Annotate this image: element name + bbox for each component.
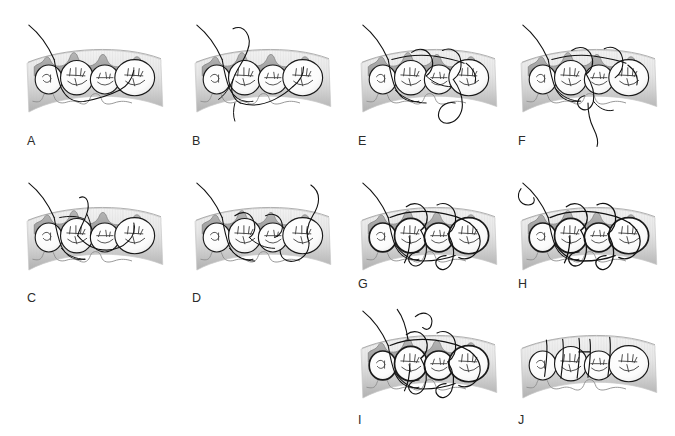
tooth-2	[61, 218, 94, 252]
suture-entry-thread	[363, 25, 388, 59]
tooth-4	[609, 346, 649, 382]
illustration-a	[18, 14, 170, 154]
tooth-2	[555, 218, 588, 252]
panel-g	[352, 172, 504, 312]
panel-a	[18, 14, 170, 154]
suture-entry-thread	[363, 311, 388, 345]
suture-second-free-end	[397, 309, 408, 340]
illustration-c	[18, 172, 170, 312]
panel-e	[352, 14, 504, 154]
panel-label-f: F	[518, 135, 526, 148]
suture-entry-thread	[29, 25, 54, 59]
panel-d	[186, 172, 338, 312]
illustration-f	[512, 14, 664, 154]
tooth-2	[555, 60, 588, 94]
suture-entry-thread	[29, 183, 54, 217]
illustration-d	[186, 172, 338, 312]
illustration-g	[352, 172, 504, 312]
panel-label-g: G	[358, 278, 368, 291]
suture-entry-thread	[197, 25, 222, 59]
illustration-h	[512, 172, 664, 312]
tooth-2	[395, 346, 428, 380]
panel-f	[512, 14, 664, 154]
tooth-4	[283, 218, 323, 254]
panel-i	[352, 300, 504, 436]
figure-canvas: ABEFCDGHIJ	[0, 0, 675, 436]
suture-entry-thread	[363, 183, 388, 217]
panel-label-c: C	[27, 292, 36, 305]
panel-label-e: E	[358, 135, 367, 148]
panel-label-d: D	[192, 292, 201, 305]
tooth-2	[395, 60, 428, 94]
illustration-e	[352, 14, 504, 154]
suture-entry-thread	[523, 25, 548, 59]
panel-h	[512, 172, 664, 312]
tooth-4	[115, 218, 155, 254]
suture-entry-thread	[197, 183, 222, 217]
panel-c	[18, 172, 170, 312]
panel-label-a: A	[27, 135, 36, 148]
panel-j	[512, 300, 664, 436]
panel-label-j: J	[518, 414, 524, 427]
suture-below-margin-loop	[234, 103, 235, 121]
panel-label-i: I	[358, 414, 362, 427]
tooth-1	[529, 351, 556, 380]
illustration-j	[512, 300, 664, 436]
tooth-2	[229, 218, 262, 252]
tooth-2	[61, 60, 94, 94]
tooth-4	[115, 60, 155, 96]
suture-free-end-curl	[415, 313, 432, 329]
panel-label-h: H	[518, 278, 527, 291]
illustration-i	[352, 300, 504, 436]
panel-b	[186, 14, 338, 154]
suture-free-tail-below	[588, 103, 598, 146]
panel-label-b: B	[192, 135, 201, 148]
illustration-b	[186, 14, 338, 154]
tooth-2	[395, 218, 428, 252]
suture-left-curl	[518, 189, 534, 205]
suture-entry-thread	[523, 183, 548, 217]
